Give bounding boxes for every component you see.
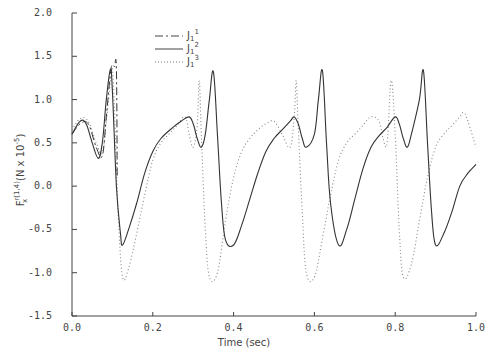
x-tick-label: 1.0 — [467, 322, 485, 333]
legend-item-j1-2: J12 — [155, 41, 199, 56]
y-tick-label: -1.0 — [28, 267, 52, 278]
x-tick-label: 0.8 — [386, 322, 404, 333]
y-tick-label: 2.0 — [34, 7, 52, 18]
y-tick-label: 0.0 — [34, 180, 52, 191]
y-tick-label: -0.5 — [28, 223, 52, 234]
x-tick-label: 0.0 — [63, 322, 81, 333]
series-line-j1-2 — [72, 69, 476, 247]
y-axis-ticks: 2.01.51.00.50.0-0.5-1.0-1.5 — [28, 7, 77, 321]
series-line-j1-1 — [72, 59, 117, 177]
axes — [72, 13, 476, 316]
y-axis-title: Fr(1,4)x(N x 10-5) — [13, 134, 29, 207]
svg-text:Fr(1,4)x(N x 10-5): Fr(1,4)x(N x 10-5) — [13, 134, 29, 207]
y-tick-label: 1.0 — [34, 94, 52, 105]
data-series — [72, 59, 476, 282]
legend-item-j1-3: J13 — [155, 54, 199, 69]
x-tick-label: 0.6 — [305, 322, 323, 333]
y-tick-label: -1.5 — [28, 310, 52, 321]
x-tick-label: 0.4 — [225, 322, 243, 333]
y-tick-label: 1.5 — [34, 50, 52, 61]
line-chart: 2.01.51.00.50.0-0.5-1.0-1.5 0.00.20.40.6… — [0, 0, 487, 354]
x-tick-label: 0.2 — [144, 322, 162, 333]
x-axis-title: Time (sec) — [217, 337, 270, 348]
series-line-j1-3 — [72, 68, 476, 282]
legend: J11 J12 J13 — [155, 28, 199, 69]
svg-text:J13: J13 — [186, 54, 199, 69]
x-axis-ticks: 0.00.20.40.60.81.0 — [63, 312, 485, 333]
legend-item-j1-1: J11 — [155, 28, 199, 43]
y-tick-label: 0.5 — [34, 137, 52, 148]
